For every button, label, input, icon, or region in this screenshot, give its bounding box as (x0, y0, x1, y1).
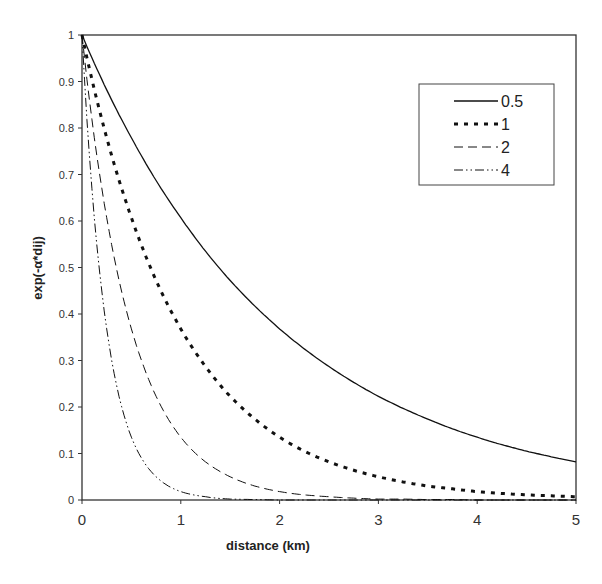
x-tick-label: 5 (572, 511, 580, 528)
decay-chart: 00.10.20.30.40.50.60.70.80.91 012345 dis… (0, 0, 602, 584)
y-tick-label: 0.4 (59, 308, 74, 320)
x-tick-label: 2 (275, 511, 283, 528)
legend-label: 1 (501, 116, 510, 133)
legend-label: 0.5 (501, 93, 523, 110)
y-tick-label: 0.3 (59, 355, 74, 367)
x-axis-label: distance (km) (226, 538, 310, 553)
y-tick-label: 1 (68, 29, 74, 41)
x-axis-ticks: 012345 (78, 500, 580, 528)
y-tick-label: 0 (68, 494, 74, 506)
y-tick-label: 0.7 (59, 169, 74, 181)
y-tick-label: 0.6 (59, 215, 74, 227)
y-tick-label: 0.2 (59, 401, 74, 413)
legend-label: 2 (501, 139, 510, 156)
y-tick-label: 0.8 (59, 122, 74, 134)
legend: 0.5124 (419, 84, 554, 185)
x-tick-label: 4 (473, 511, 481, 528)
y-tick-label: 0.1 (59, 448, 74, 460)
x-tick-label: 0 (78, 511, 86, 528)
y-tick-label: 0.9 (59, 76, 74, 88)
y-tick-label: 0.5 (59, 262, 74, 274)
y-axis-label: exp(-α*dij) (30, 236, 45, 300)
x-tick-label: 1 (177, 511, 185, 528)
x-tick-label: 3 (374, 511, 382, 528)
legend-label: 4 (501, 162, 510, 179)
y-axis-ticks: 00.10.20.30.40.50.60.70.80.91 (59, 29, 82, 506)
